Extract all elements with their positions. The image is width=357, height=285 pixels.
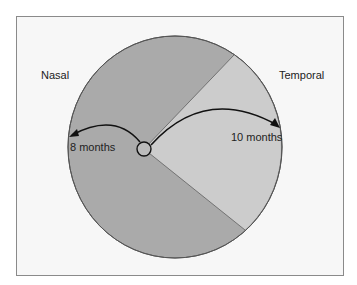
temporal-duration-label: 10 months: [231, 131, 282, 143]
retina-diagram: [0, 0, 357, 285]
optic-disc-circle: [137, 142, 151, 156]
nasal-duration-label: 8 months: [70, 141, 115, 153]
temporal-label: Temporal: [279, 69, 324, 81]
nasal-label: Nasal: [41, 69, 69, 81]
